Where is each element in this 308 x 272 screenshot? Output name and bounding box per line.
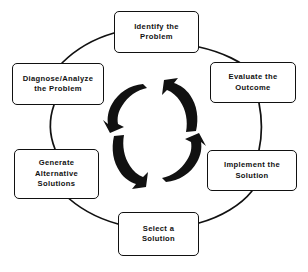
arc-evaluate-to-implement	[259, 103, 261, 150]
problem-solving-cycle-diagram: Identify the Problem Evaluate the Outcom…	[0, 0, 308, 272]
node-label: Identify the Problem	[131, 22, 182, 43]
arc-diagnose-to-identify	[62, 33, 114, 63]
node-label: Select a Solution	[139, 224, 178, 245]
center-rotation-arrows	[103, 78, 206, 189]
node-label: Evaluate the Outcome	[226, 72, 281, 93]
node-label: Generate Alternative Solutions	[32, 158, 81, 190]
node-select-a-solution[interactable]: Select a Solution	[118, 212, 199, 256]
node-evaluate-the-outcome[interactable]: Evaluate the Outcome	[210, 62, 296, 103]
node-label: Implement the Solution	[221, 160, 283, 181]
arc-implement-to-select	[199, 191, 252, 223]
node-label: Diagnose/Analyze the Problem	[20, 74, 97, 95]
node-diagnose-analyze-the-problem[interactable]: Diagnose/Analyze the Problem	[12, 63, 104, 105]
rotation-arrow-lower-right-icon	[162, 133, 206, 182]
node-implement-the-solution[interactable]: Implement the Solution	[207, 150, 297, 191]
rotation-arrow-lower-left-icon	[113, 135, 148, 189]
node-identify-the-problem[interactable]: Identify the Problem	[114, 11, 199, 53]
rotation-arrow-upper-right-icon	[162, 78, 197, 132]
rotation-arrow-upper-left-icon	[103, 84, 147, 133]
arc-generate-to-diagnose	[50, 105, 55, 149]
node-generate-alternative-solutions[interactable]: Generate Alternative Solutions	[14, 149, 99, 199]
